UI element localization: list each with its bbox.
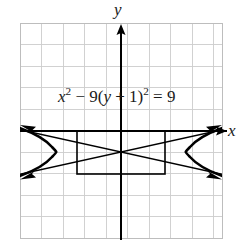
equation-annotation: x2 − 9(y + 1)2 = 9 [58, 88, 175, 107]
equation-equals-nine: = 9 [149, 87, 176, 106]
y-axis-label: y [114, 1, 122, 18]
hyperbola-graph-figure: y x x2 − 9(y + 1)2 = 9 [0, 0, 249, 250]
equation-minus-nine-open: − 9( [71, 87, 103, 106]
equation-y-term: y [103, 87, 111, 106]
x-axis-label: x [228, 122, 236, 139]
graph-canvas [0, 0, 249, 250]
equation-x-term: x [58, 87, 66, 106]
equation-plus-one-close: + 1) [111, 87, 143, 106]
